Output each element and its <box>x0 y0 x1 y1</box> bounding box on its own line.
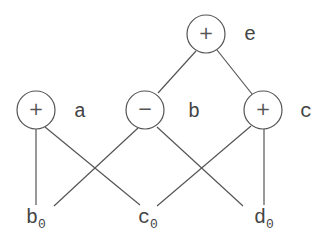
edge-e-b <box>158 51 196 93</box>
edge-b-b0 <box>54 128 138 206</box>
leaf-c0: c0 <box>138 208 158 228</box>
edge-c-c0 <box>157 126 251 206</box>
leaf-d0: d0 <box>254 208 274 228</box>
leaf-b0: b0 <box>26 208 46 228</box>
edge-b-d0 <box>157 127 243 206</box>
node-b-op: − <box>126 100 164 118</box>
node-e-op: + <box>187 24 225 42</box>
node-c-op: + <box>244 100 282 118</box>
diagram-edges <box>0 0 332 248</box>
node-e-label: e <box>244 25 256 45</box>
node-b-label: b <box>188 102 200 122</box>
node-a-op: + <box>17 100 55 118</box>
node-c-label: c <box>300 102 312 122</box>
node-a-label: a <box>74 102 86 122</box>
edge-e-c <box>217 50 252 94</box>
